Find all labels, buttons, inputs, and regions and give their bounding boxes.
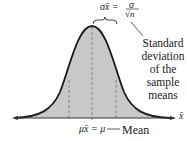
side-label: Standard deviation of the sample means <box>138 37 187 102</box>
leader-line-std <box>131 22 143 36</box>
formula-lhs: σx̄ = <box>100 1 119 12</box>
mean-label: Mean <box>122 123 149 138</box>
right-arrow-icon <box>170 116 176 120</box>
std-dev-brace <box>93 17 117 24</box>
formula-denominator: √n <box>125 9 134 19</box>
left-arrow-icon <box>12 116 18 120</box>
std-error-formula: σx̄ = <box>100 1 119 12</box>
side-label-line: deviation <box>138 50 187 63</box>
side-label-line: means <box>138 89 187 102</box>
x-axis-label: x̄ <box>179 110 183 121</box>
side-label-line: Standard <box>138 37 187 50</box>
mean-formula: μx̄ = μ <box>79 123 105 134</box>
side-label-line: sample <box>138 76 187 89</box>
side-label-line: of the <box>138 63 187 76</box>
